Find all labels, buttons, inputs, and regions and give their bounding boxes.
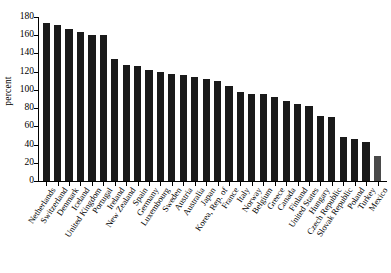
- bar: [271, 97, 278, 181]
- bar: [237, 92, 244, 181]
- x-axis-line: [38, 181, 387, 182]
- bar: [283, 101, 290, 181]
- bar: [88, 35, 95, 181]
- bar: [248, 94, 255, 181]
- y-axis-tick-120: [34, 72, 38, 73]
- x-axis-tick-labels: NetherlandsSwitzerlandDenmarkIcelandUnit…: [38, 186, 390, 273]
- y-axis-tick-label-20: 20: [0, 158, 34, 168]
- y-axis-tick-180: [34, 17, 38, 18]
- y-axis-tick-label-40: 40: [0, 140, 34, 150]
- bar: [180, 75, 187, 181]
- y-axis-tick-label-60: 60: [0, 121, 34, 131]
- y-axis-tick-labels: 020406080100120140160180: [0, 17, 34, 182]
- bar: [157, 72, 164, 181]
- bar: [305, 106, 312, 181]
- y-axis-tick-40: [34, 145, 38, 146]
- bar: [100, 35, 107, 181]
- y-axis-tick-20: [34, 163, 38, 164]
- bar: [168, 74, 175, 182]
- y-axis-line: [38, 17, 39, 182]
- bar-chart-figure: percent 020406080100120140160180 Netherl…: [0, 0, 391, 273]
- bar: [260, 94, 267, 181]
- bar: [294, 104, 301, 181]
- y-axis-tick-160: [34, 35, 38, 36]
- y-axis-tick-label-0: 0: [0, 176, 34, 186]
- y-axis-tick-60: [34, 126, 38, 127]
- y-axis-tick-0: [34, 181, 38, 182]
- y-axis-tick-140: [34, 53, 38, 54]
- y-axis-tick-label-120: 120: [0, 67, 34, 77]
- y-axis-tick-label-140: 140: [0, 48, 34, 58]
- bar: [123, 65, 130, 181]
- bar: [214, 81, 221, 181]
- bar: [374, 156, 381, 182]
- bar: [362, 142, 369, 181]
- bar: [351, 139, 358, 181]
- bar: [77, 32, 84, 181]
- bar: [225, 86, 232, 181]
- bar: [54, 25, 61, 181]
- bar: [43, 23, 50, 181]
- y-axis-tick-label-80: 80: [0, 103, 34, 113]
- y-axis-tick-label-160: 160: [0, 30, 34, 40]
- y-axis-tick-label-180: 180: [0, 12, 34, 22]
- bar: [134, 66, 141, 181]
- bar: [317, 116, 324, 181]
- y-axis-tick-100: [34, 90, 38, 91]
- bar: [65, 29, 72, 181]
- y-axis-tick-80: [34, 108, 38, 109]
- bar: [328, 117, 335, 181]
- bar: [340, 137, 347, 181]
- bar: [203, 79, 210, 181]
- bar: [145, 70, 152, 181]
- y-axis-tick-label-100: 100: [0, 85, 34, 95]
- plot-area: 020406080100120140160180: [38, 17, 387, 181]
- bar: [111, 59, 118, 181]
- bar: [191, 77, 198, 181]
